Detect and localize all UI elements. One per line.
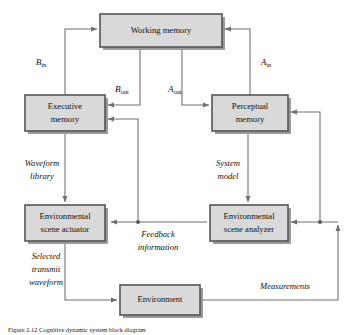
- signal-label-a-in: Ain: [260, 57, 272, 68]
- wire-b-out: [108, 47, 140, 105]
- block-perceptual-memory[interactable]: Perceptual memory: [212, 95, 291, 134]
- block-working-memory-label: Working memory: [131, 25, 192, 35]
- signal-label-b-out: Bout: [115, 84, 129, 95]
- block-perceptual-memory-label-line2: memory: [236, 114, 265, 124]
- block-scene-analyzer[interactable]: Environmental scene analyzer: [210, 205, 291, 244]
- figure-caption: Figure 2.12 Cognitive dynamic system blo…: [8, 326, 146, 333]
- wire-feedback-to-executive: [108, 119, 138, 222]
- block-environment[interactable]: Environment: [120, 285, 203, 318]
- wire-a-in: [225, 29, 250, 95]
- wire-measurements-to-perceptual: [291, 112, 320, 222]
- block-working-memory[interactable]: Working memory: [100, 14, 225, 50]
- block-scene-actuator[interactable]: Environmental scene actuator: [25, 205, 108, 244]
- block-scene-actuator-label-line1: Environmental: [39, 211, 91, 221]
- signal-label-a-out: Aout: [167, 84, 182, 95]
- block-executive-memory-label-line1: Executive: [48, 101, 83, 111]
- figure-container: Working memory Executive memory Perceptu…: [0, 0, 358, 335]
- annotation-system-model-line2: model: [217, 171, 239, 181]
- annotation-measurements: Measurements: [259, 281, 310, 291]
- annotation-waveform-library-line1: Waveform: [25, 158, 60, 168]
- annotation-feedback-line1: Feedback: [140, 229, 175, 239]
- block-perceptual-memory-label-line1: Perceptual: [232, 101, 269, 111]
- annotation-transmit-line1: Selected: [32, 251, 61, 261]
- annotation-system-model-line1: System: [216, 158, 240, 168]
- annotation-waveform-library-line2: library: [30, 171, 54, 181]
- annotation-transmit-line2: transmit: [32, 264, 61, 274]
- signal-label-b-in: Bin: [36, 57, 47, 68]
- wire-layer: [65, 29, 338, 300]
- annotation-feedback-line2: information: [138, 242, 179, 252]
- block-scene-analyzer-label-line2: scene analyzer: [224, 224, 274, 234]
- wire-transmit-waveform: [65, 241, 117, 300]
- wire-a-out: [182, 47, 209, 105]
- annotation-transmit-line3: waveform: [29, 277, 63, 287]
- block-diagram: Working memory Executive memory Perceptu…: [0, 0, 358, 335]
- block-executive-memory[interactable]: Executive memory: [25, 95, 108, 134]
- block-scene-analyzer-label-line1: Environmental: [223, 211, 275, 221]
- junction-feedback: [136, 220, 140, 224]
- block-environment-label: Environment: [138, 294, 183, 304]
- block-scene-actuator-label-line2: scene actuator: [41, 224, 90, 234]
- wire-b-in: [65, 29, 97, 95]
- block-executive-memory-label-line2: memory: [51, 114, 80, 124]
